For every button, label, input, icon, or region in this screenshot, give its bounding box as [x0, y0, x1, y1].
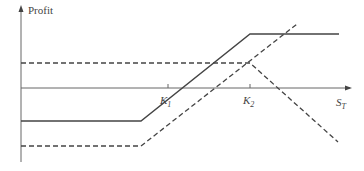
long-call-line — [21, 24, 297, 146]
payoff-diagram: Profit ST K1 K2 — [0, 0, 364, 171]
k2-label: K2 — [242, 94, 254, 109]
x-axis-arrow-icon — [345, 86, 352, 91]
bull-spread-profit-line — [21, 34, 339, 121]
y-axis-arrow-icon — [19, 5, 24, 12]
short-call-line — [21, 63, 338, 142]
x-axis-label: ST — [336, 96, 347, 111]
y-axis-label: Profit — [28, 4, 53, 16]
